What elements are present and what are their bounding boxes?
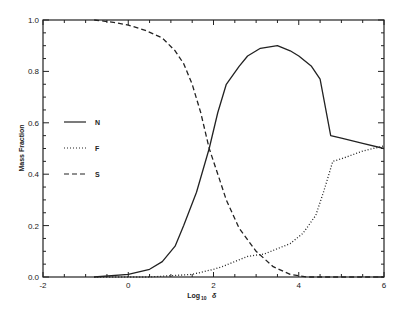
x-axis-title-sub: 10 [201, 295, 207, 301]
y-tick-label: 1.0 [28, 16, 40, 25]
x-axis-title-symbol: δ [212, 292, 217, 299]
legend: N F S [64, 119, 100, 178]
y-tick-label: 0.2 [28, 222, 40, 231]
y-tick-label: 0.8 [28, 67, 40, 76]
mass-fraction-chart: -202460.00.20.40.60.81.0 N F S Mass Frac… [0, 0, 404, 312]
legend-label-f: F [95, 145, 100, 152]
y-tick-label: 0.4 [28, 170, 40, 179]
x-axis-title-main: Log [187, 292, 200, 300]
data-series [94, 20, 384, 277]
y-tick-label: 0.6 [28, 119, 40, 128]
y-axis-title: Mass Fraction [18, 124, 25, 171]
x-tick-label: 2 [211, 281, 216, 290]
y-tick-label: 0.0 [28, 273, 40, 282]
x-axis-title: Log 10 δ [187, 292, 217, 301]
x-tick-label: -2 [39, 281, 47, 290]
series-line-n [94, 46, 384, 277]
series-line-s [94, 20, 384, 277]
series-line-f [94, 146, 384, 277]
x-tick-label: 0 [126, 281, 131, 290]
x-tick-label: 4 [297, 281, 302, 290]
legend-label-s: S [95, 171, 100, 178]
x-tick-label: 6 [382, 281, 387, 290]
legend-label-n: N [95, 119, 100, 126]
